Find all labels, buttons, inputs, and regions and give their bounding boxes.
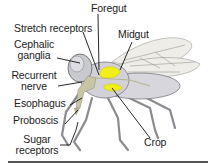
label-esophagus: Esophagus: [14, 98, 66, 109]
label-sugar-receptors-line2: receptors: [12, 145, 62, 156]
label-cephalic-ganglia-line2: ganglia: [14, 50, 54, 61]
label-crop: Crop: [144, 137, 166, 148]
bottom-divider: [8, 161, 208, 163]
label-midgut: Midgut: [118, 29, 149, 40]
label-recurrent-nerve-line2: nerve: [9, 81, 59, 92]
fly-anatomy-diagram: Foregut Stretch receptors Midgut Cephali…: [0, 0, 209, 168]
label-foregut: Foregut: [91, 3, 127, 14]
label-proboscis: Proboscis: [13, 115, 58, 126]
label-stretch-receptors: Stretch receptors: [14, 23, 92, 34]
